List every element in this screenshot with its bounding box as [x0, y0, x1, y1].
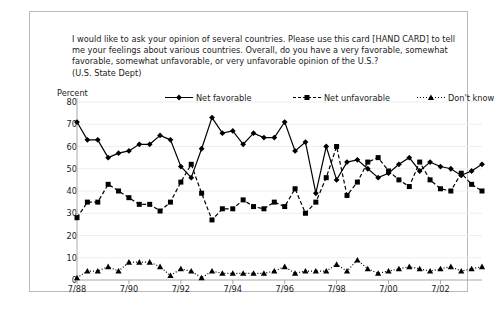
data-marker-square — [303, 211, 308, 216]
data-marker-triangle — [271, 268, 277, 274]
data-marker-square — [386, 168, 391, 173]
data-marker-square — [147, 202, 152, 207]
series-line-diamond — [77, 118, 482, 194]
data-marker-diamond — [438, 164, 444, 170]
data-marker-diamond — [448, 166, 454, 172]
data-marker-diamond — [126, 148, 132, 154]
y-tick-40: 40 — [67, 186, 77, 196]
data-marker-square — [116, 189, 121, 194]
data-marker-square — [417, 160, 422, 165]
x-tick-7-00: 7/00 — [379, 284, 397, 294]
y-axis-tick-labels: 01020304050607080 — [59, 97, 77, 285]
data-marker-square — [126, 195, 131, 200]
data-marker-square — [365, 160, 370, 165]
data-marker-diamond — [344, 159, 350, 165]
series-line-square — [77, 147, 482, 220]
data-marker-triangle — [365, 266, 371, 272]
data-marker-diamond — [469, 168, 475, 174]
y-tick-80: 80 — [67, 97, 77, 107]
data-marker-square — [293, 186, 298, 191]
y-tick-10: 10 — [67, 253, 77, 263]
data-marker-triangle — [199, 275, 205, 281]
data-marker-triangle — [105, 264, 111, 270]
data-marker-triangle — [479, 264, 485, 270]
data-marker-square — [210, 217, 215, 222]
data-marker-square — [178, 180, 183, 185]
data-marker-square — [85, 200, 90, 205]
data-marker-square — [272, 200, 277, 205]
data-marker-square — [345, 193, 350, 198]
y-tick-60: 60 — [67, 142, 77, 152]
x-tick-7-92: 7/92 — [172, 284, 190, 294]
data-marker-square — [189, 162, 194, 167]
data-marker-diamond — [116, 150, 122, 156]
chart-frame: I would like to ask your opinion of seve… — [29, 11, 468, 292]
survey-question-text: I would like to ask your opinion of seve… — [72, 34, 489, 79]
data-marker-square — [407, 184, 412, 189]
x-tick-7-90: 7/90 — [120, 284, 138, 294]
data-marker-square — [106, 182, 111, 187]
data-marker-square — [376, 155, 381, 160]
x-tick-7-96: 7/96 — [275, 284, 293, 294]
data-marker-square — [261, 206, 266, 211]
x-tick-7-94: 7/94 — [224, 284, 242, 294]
data-marker-diamond — [261, 135, 267, 141]
data-marker-square — [428, 177, 433, 182]
data-marker-square — [251, 204, 256, 209]
data-marker-square — [334, 144, 339, 149]
data-marker-triangle — [240, 270, 246, 276]
data-marker-triangle — [354, 257, 360, 263]
data-marker-square — [396, 177, 401, 182]
data-marker-triangle — [147, 259, 153, 265]
legend-label: Don't know — [448, 93, 494, 103]
data-marker-diamond — [479, 161, 485, 167]
data-marker-triangle — [261, 270, 267, 276]
data-marker-square — [168, 200, 173, 205]
plot-area — [77, 102, 482, 280]
data-marker-triangle — [428, 94, 434, 100]
x-tick-7-98: 7/98 — [327, 284, 345, 294]
data-marker-triangle — [282, 264, 288, 270]
data-marker-square — [355, 180, 360, 185]
data-marker-triangle — [437, 266, 443, 272]
data-marker-square — [220, 206, 225, 211]
data-marker-triangle — [157, 264, 163, 270]
series-lines — [77, 102, 482, 280]
data-marker-triangle — [167, 272, 173, 278]
data-marker-diamond — [168, 137, 174, 143]
data-marker-square — [324, 175, 329, 180]
data-marker-square — [459, 171, 464, 176]
data-marker-diamond — [136, 141, 142, 147]
data-marker-diamond — [334, 177, 340, 183]
data-marker-triangle — [375, 270, 381, 276]
data-marker-triangle — [448, 264, 454, 270]
data-marker-triangle — [188, 268, 194, 274]
data-marker-diamond — [176, 95, 182, 101]
data-marker-triangle — [406, 264, 412, 270]
data-marker-diamond — [105, 155, 111, 161]
x-tick-7-02: 7/02 — [431, 284, 449, 294]
data-marker-triangle — [84, 268, 90, 274]
x-axis-tick-labels: 7/887/907/927/947/967/987/007/02 — [59, 284, 489, 298]
data-marker-diamond — [95, 137, 101, 143]
data-marker-square — [95, 200, 100, 205]
data-marker-triangle — [209, 268, 215, 274]
y-tick-20: 20 — [67, 231, 77, 241]
data-marker-square — [282, 204, 287, 209]
data-marker-triangle — [396, 266, 402, 272]
data-marker-triangle — [458, 268, 464, 274]
data-marker-square — [158, 209, 163, 214]
data-marker-square — [137, 202, 142, 207]
data-marker-square — [75, 215, 80, 220]
data-marker-square — [305, 95, 310, 100]
data-marker-triangle — [292, 270, 298, 276]
data-marker-triangle — [385, 268, 391, 274]
data-marker-diamond — [199, 146, 205, 152]
data-marker-triangle — [302, 268, 308, 274]
data-marker-square — [438, 186, 443, 191]
data-marker-square — [448, 189, 453, 194]
data-marker-triangle — [334, 261, 340, 267]
data-marker-square — [241, 197, 246, 202]
data-marker-triangle — [344, 268, 350, 274]
legend-label: Net favorable — [196, 93, 252, 103]
